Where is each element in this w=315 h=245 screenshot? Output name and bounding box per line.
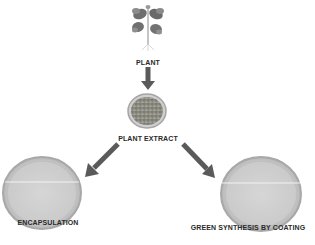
arrow-extract-to-encapsulation — [85, 144, 118, 177]
plant-icon — [131, 5, 164, 51]
petri-dish-extract-icon — [128, 94, 166, 128]
petri-dish-coating-icon — [221, 157, 301, 231]
label-encapsulation: ENCAPSULATION — [17, 219, 78, 226]
label-green-synthesis-by-coating: GREEN SYNTHESIS BY COATING — [191, 224, 305, 231]
label-plant-extract: PLANT EXTRACT — [118, 135, 178, 142]
label-plant: PLANT — [136, 59, 160, 66]
arrow-extract-to-coating — [183, 144, 215, 178]
arrow-plant-to-extract — [141, 67, 155, 90]
diagram-canvas — [0, 0, 315, 245]
